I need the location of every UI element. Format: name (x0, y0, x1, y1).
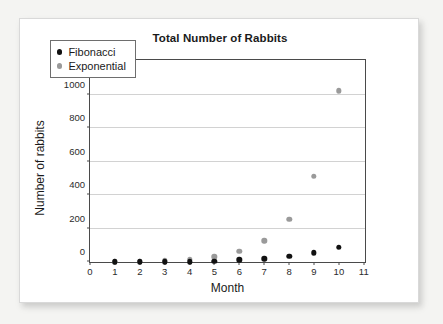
gridline (90, 94, 365, 95)
x-axis-tick-label: 2 (137, 266, 142, 277)
legend-marker-exponential-icon (57, 63, 62, 68)
x-axis-tick-label: 8 (286, 266, 291, 277)
data-point-fibonacci (237, 257, 242, 262)
data-point-fibonacci (262, 256, 267, 261)
x-axis-tick-mark (363, 262, 364, 265)
x-axis-tick-label: 0 (87, 266, 92, 277)
data-point-fibonacci (336, 244, 341, 249)
y-axis-tick-label: 600 (69, 145, 85, 156)
y-axis-tick-label: 0 (80, 246, 85, 257)
x-axis-tick-mark (90, 262, 91, 265)
y-axis-tick-mark (87, 127, 90, 128)
x-axis-tick-label: 5 (212, 266, 217, 277)
gridline (90, 161, 365, 162)
plot-inner: 02004006008001000120001234567891011 (90, 60, 365, 262)
x-axis-tick-mark (314, 262, 315, 265)
legend-item: Fibonacci (57, 45, 126, 59)
x-axis-tick-label: 1 (112, 266, 117, 277)
chart-card: Total Number of Rabbits 0200400600800100… (19, 18, 419, 303)
data-point-exponential (311, 174, 316, 179)
x-axis-tick-mark (239, 262, 240, 265)
gridline (90, 127, 365, 128)
legend-item-label: Exponential (68, 60, 126, 72)
y-axis-tick-mark (87, 93, 90, 94)
x-axis-tick-mark (264, 262, 265, 265)
data-point-exponential (336, 88, 341, 93)
data-point-exponential (237, 249, 242, 254)
x-axis-tick-label: 10 (334, 266, 345, 277)
y-axis-tick-label: 1000 (64, 78, 85, 89)
chart-legend: FibonacciExponential (50, 40, 136, 78)
x-axis-tick-label: 3 (162, 266, 167, 277)
y-axis-tick-label: 200 (69, 212, 85, 223)
data-point-fibonacci (162, 259, 167, 264)
y-axis-tick-mark (87, 194, 90, 195)
data-point-fibonacci (311, 250, 316, 255)
x-axis-tick-label: 9 (311, 266, 316, 277)
x-axis-tick-label: 11 (359, 266, 369, 277)
gridline (90, 228, 365, 229)
y-axis-tick-mark (87, 160, 90, 161)
data-point-fibonacci (187, 259, 192, 264)
data-point-fibonacci (212, 258, 217, 263)
data-point-fibonacci (286, 254, 291, 259)
data-point-exponential (286, 216, 291, 221)
y-axis-tick-label: 400 (69, 179, 85, 190)
y-axis-tick-mark (87, 227, 90, 228)
legend-item: Exponential (57, 59, 126, 73)
screenshot-stage: Total Number of Rabbits 0200400600800100… (0, 0, 443, 324)
data-point-fibonacci (112, 259, 117, 264)
legend-marker-fibonacci-icon (57, 49, 62, 54)
x-axis-tick-mark (338, 262, 339, 265)
y-axis-tick-label: 800 (69, 112, 85, 123)
gridline (90, 194, 365, 195)
x-axis-tick-label: 7 (262, 266, 267, 277)
x-axis-label: Month (89, 281, 366, 295)
y-axis-label: Number of rabbits (33, 88, 47, 248)
data-point-exponential (262, 238, 267, 243)
x-axis-tick-label: 4 (187, 266, 192, 277)
data-point-fibonacci (137, 259, 142, 264)
x-axis-tick-mark (289, 262, 290, 265)
legend-item-label: Fibonacci (68, 46, 115, 58)
plot-area: 02004006008001000120001234567891011 (89, 59, 366, 263)
x-axis-tick-label: 6 (237, 266, 242, 277)
